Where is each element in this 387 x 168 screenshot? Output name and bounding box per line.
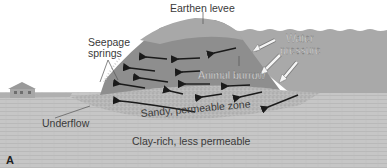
levee-seepage-diagram: Earthen levee Seepage springs Water pres… — [0, 0, 387, 168]
label-seepage-line2: springs — [88, 47, 122, 59]
label-clay: Clay-rich, less permeable — [132, 135, 251, 147]
house-icon — [8, 82, 36, 98]
label-underflow: Underflow — [42, 117, 90, 129]
label-earthen-levee: Earthen levee — [170, 2, 235, 14]
panel-label: A — [6, 154, 14, 166]
label-water-line2: pressure — [280, 44, 321, 56]
label-animal-burrow: Animal burrow — [198, 69, 266, 81]
label-water-line1: Water — [286, 32, 314, 44]
